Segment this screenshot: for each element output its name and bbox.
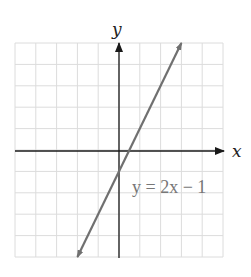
y-axis-label: y	[111, 19, 122, 39]
coordinate-plane: x y y = 2x − 1	[0, 0, 251, 277]
equation-label: y = 2x − 1	[132, 177, 206, 197]
x-axis-label: x	[232, 141, 242, 161]
